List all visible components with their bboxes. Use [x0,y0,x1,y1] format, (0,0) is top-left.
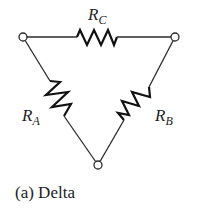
branch-rb [98,37,175,165]
label-rb: RB [154,106,173,128]
resistor-ra-zigzag [46,81,71,116]
node-top-left [19,33,27,41]
resistor-rb-zigzag [118,87,150,120]
delta-circuit-diagram: RC RA RB [0,0,208,209]
node-top-right [171,33,179,41]
branch-rc [23,30,175,45]
node-bottom [94,161,102,169]
branch-ra [23,37,98,165]
label-rc: RC [87,5,107,27]
resistor-rc-zigzag [77,30,117,45]
figure-caption: (a) Delta [15,183,75,203]
label-ra: RA [21,106,40,128]
